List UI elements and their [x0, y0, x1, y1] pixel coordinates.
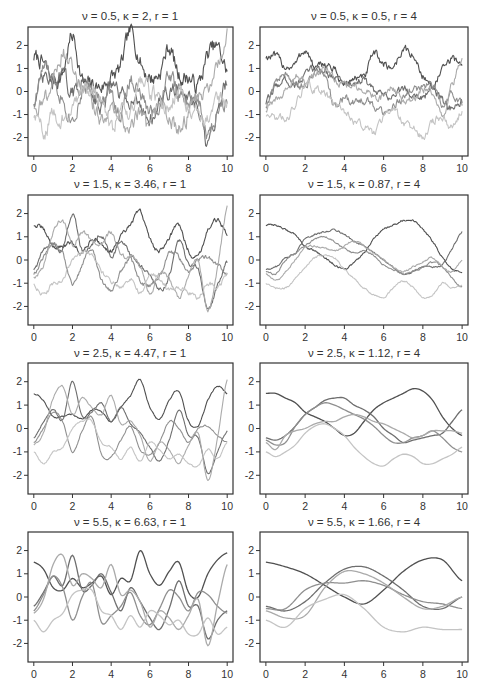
x-tick-label: 2	[302, 668, 308, 680]
x-tick-label: 10	[456, 500, 468, 512]
series-lines	[266, 389, 462, 466]
y-tick-label: -1	[13, 445, 22, 457]
y-tick-label: 1	[248, 399, 254, 411]
y-tick-label: 1	[16, 62, 22, 74]
plot-frame	[28, 363, 233, 494]
x-tick-label: 10	[221, 331, 233, 343]
chart-panel-8: ν = 5.5, κ = 1.66, r = 4 210-1-20246810	[245, 516, 468, 680]
chart-panel-6: ν = 2.5, κ = 1.12, r = 4 210-1-20246810	[245, 347, 468, 512]
y-tick-label: -1	[245, 277, 254, 289]
x-tick-label: 4	[341, 500, 347, 512]
series-line-s2	[266, 397, 462, 442]
x-tick-label: 0	[31, 162, 37, 174]
x-tick-label: 0	[31, 331, 37, 343]
y-tick-label: 0	[16, 254, 22, 266]
y-tick-label: 0	[248, 85, 254, 97]
x-tick-label: 2	[70, 668, 76, 680]
y-tick-label: 0	[248, 254, 254, 266]
y-tick-label: -2	[13, 131, 22, 143]
x-tick-label: 0	[31, 500, 37, 512]
y-tick-label: -1	[13, 277, 22, 289]
x-tick-label: 10	[221, 500, 233, 512]
x-tick-label: 4	[341, 331, 347, 343]
x-axis: 0246810	[263, 662, 468, 680]
x-tick-label: 6	[147, 162, 153, 174]
y-tick-label: -1	[245, 445, 254, 457]
chart-grid: ν = 0.5, κ = 2, r = 1 210-1-20246810 ν =…	[0, 0, 479, 692]
x-tick-label: 8	[186, 162, 192, 174]
y-tick-label: 0	[248, 422, 254, 434]
y-tick-label: -1	[245, 614, 254, 626]
plot-frame	[28, 195, 233, 325]
series-line-s3	[266, 236, 462, 287]
y-tick-label: -2	[13, 637, 22, 649]
y-tick-label: -1	[245, 108, 254, 120]
x-axis: 0246810	[263, 325, 468, 343]
y-tick-label: 2	[16, 39, 22, 51]
x-tick-label: 10	[456, 162, 468, 174]
x-tick-label: 8	[186, 668, 192, 680]
x-tick-label: 0	[263, 668, 269, 680]
plot-frame	[260, 532, 468, 662]
x-tick-label: 0	[263, 331, 269, 343]
x-tick-label: 6	[147, 331, 153, 343]
y-tick-label: 2	[248, 207, 254, 219]
chart-title: ν = 0.5, κ = 2, r = 1	[82, 10, 178, 22]
x-tick-label: 2	[70, 500, 76, 512]
x-tick-label: 8	[186, 500, 192, 512]
chart-title: ν = 5.5, κ = 1.66, r = 4	[308, 516, 421, 528]
y-tick-label: 1	[248, 230, 254, 242]
series-line-s5	[266, 255, 462, 298]
x-tick-label: 6	[147, 668, 153, 680]
y-tick-label: -1	[13, 614, 22, 626]
series-line-s4	[266, 241, 462, 280]
series-line-s3	[34, 243, 227, 291]
x-tick-label: 10	[456, 331, 468, 343]
y-axis: 210-1-2	[13, 375, 28, 481]
x-tick-label: 2	[302, 331, 308, 343]
series-line-s4	[34, 554, 227, 646]
x-tick-label: 0	[263, 500, 269, 512]
x-tick-label: 8	[420, 162, 426, 174]
chart-title: ν = 0.5, κ = 0.5, r = 4	[311, 10, 417, 22]
chart-title: ν = 2.5, κ = 1.12, r = 4	[308, 347, 421, 359]
y-tick-label: 2	[248, 39, 254, 51]
x-tick-label: 4	[341, 162, 347, 174]
x-tick-label: 8	[420, 331, 426, 343]
series-lines	[266, 45, 462, 139]
chart-panel-5: ν = 2.5, κ = 4.47, r = 1 210-1-20246810	[13, 347, 234, 512]
y-tick-label: 0	[16, 422, 22, 434]
x-tick-label: 4	[108, 500, 114, 512]
series-line-s5	[34, 588, 227, 636]
series-line-s4	[34, 206, 227, 312]
series-lines	[34, 551, 227, 646]
series-lines	[266, 220, 462, 298]
x-tick-label: 4	[108, 162, 114, 174]
plot-frame	[28, 27, 233, 156]
y-tick-label: 2	[248, 375, 254, 387]
y-axis: 210-1-2	[13, 207, 28, 312]
y-tick-label: 2	[16, 207, 22, 219]
y-axis: 210-1-2	[245, 39, 260, 143]
y-tick-label: -2	[245, 469, 254, 481]
x-tick-label: 2	[302, 500, 308, 512]
series-lines	[34, 379, 227, 480]
y-axis: 210-1-2	[13, 544, 28, 649]
series-lines	[266, 558, 462, 632]
y-axis: 210-1-2	[245, 207, 260, 312]
x-axis: 0246810	[263, 494, 468, 512]
y-tick-label: 2	[16, 544, 22, 556]
x-axis: 0246810	[31, 662, 233, 680]
y-axis: 210-1-2	[245, 544, 260, 649]
x-tick-label: 6	[147, 500, 153, 512]
x-tick-label: 10	[221, 162, 233, 174]
series-line-s1	[266, 389, 462, 436]
y-tick-label: 1	[16, 230, 22, 242]
y-tick-label: 1	[16, 399, 22, 411]
x-tick-label: 2	[70, 162, 76, 174]
x-axis: 0246810	[31, 156, 233, 174]
chart-title: ν = 1.5, κ = 0.87, r = 4	[308, 178, 421, 190]
chart-panel-4: ν = 1.5, κ = 0.87, r = 4 210-1-20246810	[245, 178, 468, 343]
y-tick-label: 2	[16, 375, 22, 387]
series-line-s1	[34, 24, 227, 93]
